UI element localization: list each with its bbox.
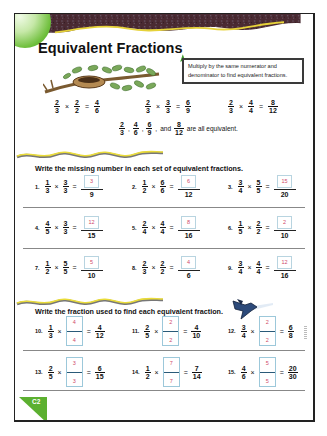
problem-10: 10. 13 × 44 = 412 [35, 316, 105, 346]
fraction: 34 [241, 324, 247, 339]
problem-2: 2. 12 × 66 = 612 [132, 175, 200, 198]
problem-number: 2. [132, 184, 137, 190]
times-sign: × [239, 103, 243, 110]
answer-fraction-box[interactable]: 22 [259, 316, 276, 346]
answer-denominator[interactable]: 7 [170, 378, 173, 384]
answer-input[interactable]: 15 [277, 175, 292, 188]
numerator: 3 [63, 179, 69, 186]
denominator: 6 [241, 372, 247, 380]
answer-fraction-box[interactable]: 33 [66, 357, 83, 387]
equals-sign: = [266, 264, 270, 271]
denominator: 6 [160, 186, 166, 194]
denominator: 9 [185, 106, 191, 114]
answer-input[interactable]: 4 [181, 256, 196, 269]
fraction: 46 [94, 99, 100, 114]
nest-branch-illustration [43, 62, 161, 98]
fraction: 23 [119, 121, 125, 136]
numerator: 1 [48, 324, 54, 331]
problem-11: 11. 25 × 22 = 410 [132, 316, 201, 346]
answer-denominator[interactable]: 2 [169, 337, 172, 343]
fraction: 33 [165, 99, 171, 114]
answer-fraction: 1216 [274, 256, 296, 279]
numerator: 7 [194, 365, 200, 372]
answer-fraction: 510 [81, 256, 103, 279]
numerator: 6 [185, 99, 191, 106]
answer-fraction: 816 [178, 216, 200, 239]
times-sign: × [248, 264, 252, 271]
numerator: 4 [241, 365, 247, 372]
answer-fraction-box[interactable]: 77 [163, 357, 180, 387]
fraction: 615 [95, 365, 105, 380]
equals-sign: = [73, 264, 77, 271]
answer-denominator[interactable]: 3 [73, 378, 76, 384]
answer-fraction-box[interactable]: 55 [259, 357, 276, 387]
answer-denominator[interactable]: 5 [266, 378, 269, 384]
equals-sign: = [280, 369, 284, 376]
fraction: 68 [288, 324, 294, 339]
answer-input[interactable]: 2 [277, 216, 292, 229]
answer-numerator[interactable]: 4 [73, 319, 76, 325]
numerator: 2 [142, 220, 148, 227]
answer-numerator[interactable]: 7 [170, 360, 173, 366]
denominator: 16 [281, 271, 289, 279]
denominator: 12 [174, 128, 184, 136]
answer-fraction-box[interactable]: 44 [66, 316, 83, 346]
answer-input[interactable]: 8 [181, 216, 196, 229]
problem-1: 1. 13 × 33 = 39 [35, 175, 103, 198]
problem-6: 6. 15 × 22 = 210 [228, 216, 296, 239]
equals-sign: = [73, 224, 77, 231]
answer-numerator[interactable]: 5 [266, 360, 269, 366]
times-sign: × [248, 183, 252, 190]
denominator: 2 [142, 186, 148, 194]
numerator: 2 [54, 99, 60, 106]
answer-input[interactable]: 12 [84, 216, 99, 229]
answer-input[interactable]: 12 [277, 256, 292, 269]
answer-denominator[interactable]: 2 [266, 337, 269, 343]
fraction: 23 [142, 260, 148, 275]
row-divider [23, 207, 305, 208]
numerator: 3 [241, 324, 247, 331]
numerator: 8 [270, 99, 276, 106]
answer-numerator[interactable]: 3 [73, 360, 76, 366]
answer-denominator[interactable]: 4 [73, 337, 76, 343]
numerator: 5 [256, 179, 262, 186]
fraction: 46 [133, 121, 139, 136]
denominator: 3 [48, 331, 54, 339]
denominator: 2 [74, 106, 80, 114]
numerator: 3 [63, 220, 69, 227]
problem-7: 7. 12 × 55 = 510 [35, 256, 103, 279]
denominator: 9 [90, 190, 94, 198]
numerator: 4 [94, 99, 100, 106]
denominator: 16 [185, 231, 193, 239]
denominator: 3 [45, 186, 51, 194]
answer-input[interactable]: 3 [84, 175, 99, 188]
answer-fraction-box[interactable]: 22 [162, 316, 179, 346]
numerator: 4 [97, 324, 103, 331]
copyright-vertical-text [304, 326, 307, 340]
fraction: 22 [160, 260, 166, 275]
fraction: 33 [63, 220, 69, 235]
denominator: 12 [268, 106, 278, 114]
numerator: 4 [256, 260, 262, 267]
page-tag-label: C2 [32, 398, 40, 405]
denominator: 3 [228, 106, 234, 114]
numerator: 1 [145, 365, 151, 372]
equals-sign: = [184, 369, 188, 376]
page-title: Equivalent Fractions [38, 40, 183, 56]
answer-fraction: 612 [178, 175, 200, 198]
numerator: 4 [248, 99, 254, 106]
answer-numerator[interactable]: 2 [169, 319, 172, 325]
answer-input[interactable]: 5 [84, 256, 99, 269]
answer-numerator[interactable]: 2 [266, 319, 269, 325]
fraction: 12 [145, 365, 151, 380]
numerator: 6 [97, 365, 103, 372]
example-2: 23 × 33 = 69 [145, 99, 191, 114]
answer-input[interactable]: 6 [181, 175, 196, 188]
times-sign: × [156, 103, 160, 110]
worksheet-page: Equivalent Fractions Multiply by the sam… [14, 13, 315, 422]
numerator: 2 [142, 260, 148, 267]
fraction: 55 [63, 260, 69, 275]
fraction: 12 [142, 179, 148, 194]
section1-instruction: Write the missing number in each set of … [35, 164, 243, 173]
header-banner [15, 14, 313, 36]
